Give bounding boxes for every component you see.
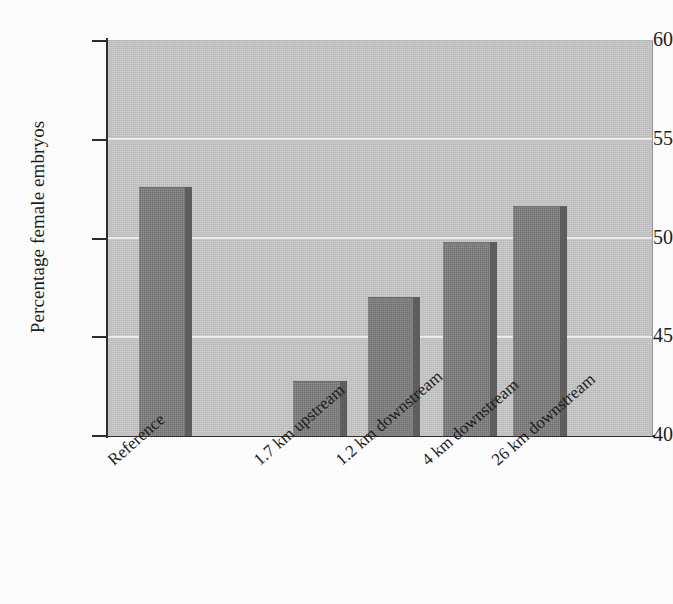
plot-right-edge (652, 40, 653, 436)
y-tick-60 (92, 40, 106, 42)
bar-side-face (185, 187, 192, 437)
bar-chart-figure: Percentage female embryos 60 55 50 45 40 (0, 0, 673, 604)
gridline-55 (108, 138, 653, 140)
y-tick-45 (92, 336, 106, 338)
plot-area (108, 40, 653, 436)
y-tick-50 (92, 238, 106, 240)
bar-face (139, 187, 185, 437)
bar-side-face (413, 297, 420, 436)
bar-reference (139, 187, 192, 437)
y-tick-40 (92, 435, 106, 437)
plot-top-edge (108, 40, 653, 41)
y-tick-55 (92, 139, 106, 141)
y-axis-title: Percentage female embryos (27, 47, 49, 407)
